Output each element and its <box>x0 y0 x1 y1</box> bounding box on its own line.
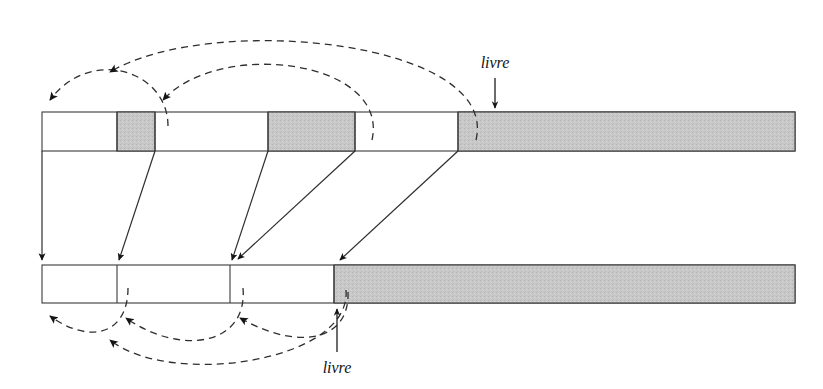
bottom-livre-annotation: livre <box>323 309 352 376</box>
top-livre-annotation: livre <box>481 54 510 108</box>
bottom-livre-label: livre <box>323 359 352 376</box>
connector-group <box>42 151 458 260</box>
upper-shaded-segment-3 <box>268 112 355 151</box>
lower-shaded-segment-3 <box>334 265 795 303</box>
lower-bar-group <box>42 265 795 303</box>
upper-bar-group <box>42 112 795 151</box>
upper-shaded-segment-5 <box>458 112 795 151</box>
diagram-canvas: livre livre <box>0 0 823 389</box>
connector-1 <box>119 151 155 260</box>
connector-2 <box>232 151 268 260</box>
connector-4 <box>340 151 458 260</box>
upper-shaded-segment-1 <box>117 112 155 151</box>
alignment-diagram: livre livre <box>0 0 823 389</box>
top-livre-label: livre <box>481 54 510 71</box>
connector-3 <box>238 151 355 259</box>
